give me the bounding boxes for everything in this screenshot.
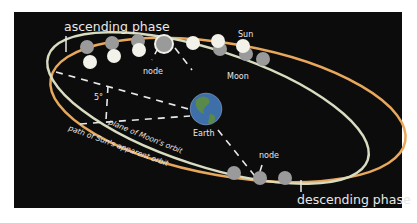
eclipse-orbit-diagram: ascending phase descending phase Sun Moo… — [0, 0, 417, 223]
earth-label: Earth — [193, 129, 214, 138]
node-bottom-label: node — [259, 151, 279, 160]
angle-label: 5° — [94, 93, 103, 102]
earth-icon — [190, 93, 222, 125]
moon-label: Moon — [227, 72, 249, 81]
sun-label: Sun — [238, 30, 253, 39]
discs-bottom — [227, 166, 292, 185]
ascending-phase-label: ascending phase — [64, 19, 170, 34]
eclipse-node-top-disc — [155, 35, 173, 53]
node-top-label: node — [143, 67, 163, 76]
sun-orbit-path — [39, 14, 416, 207]
descending-phase-label: descending phase — [297, 192, 411, 207]
